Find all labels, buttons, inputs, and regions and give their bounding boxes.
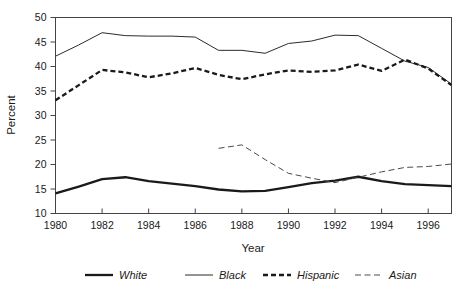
x-axis-title: Year (241, 242, 264, 254)
data-series-group (56, 33, 452, 194)
x-tick-label: 1992 (323, 219, 347, 231)
legend-label-asian: Asian (388, 269, 417, 281)
chart-figure: 101520253035404550 198019821984198619881… (0, 0, 464, 289)
line-chart: 101520253035404550 198019821984198619881… (0, 0, 464, 289)
legend-label-white: White (119, 269, 147, 281)
legend-label-hispanic: Hispanic (297, 269, 340, 281)
x-tick-label: 1994 (370, 219, 394, 231)
plot-frame (56, 18, 452, 214)
series-line-white (56, 177, 452, 194)
x-tick-label: 1982 (90, 219, 114, 231)
x-axis-ticks: 198019821984198619881990199219941996 (44, 209, 440, 231)
y-tick-label: 10 (35, 207, 47, 219)
y-tick-label: 35 (35, 85, 47, 97)
x-tick-label: 1988 (230, 219, 254, 231)
x-tick-label: 1984 (137, 219, 161, 231)
y-tick-label: 30 (35, 109, 47, 121)
y-tick-label: 50 (35, 11, 47, 23)
y-tick-label: 45 (35, 36, 47, 48)
legend-label-black: Black (219, 269, 246, 281)
x-tick-label: 1986 (184, 219, 208, 231)
series-line-hispanic (56, 60, 452, 101)
series-line-asian (219, 145, 452, 183)
y-tick-label: 40 (35, 60, 47, 72)
y-axis-ticks: 101520253035404550 (35, 11, 56, 219)
y-tick-label: 20 (35, 158, 47, 170)
x-tick-label: 1990 (277, 219, 301, 231)
chart-legend: WhiteBlackHispanicAsian (85, 269, 417, 281)
y-axis-title: Percent (5, 94, 17, 134)
x-tick-label: 1996 (417, 219, 441, 231)
x-tick-label: 1980 (44, 219, 68, 231)
y-tick-label: 25 (35, 134, 47, 146)
y-tick-label: 15 (35, 183, 47, 195)
